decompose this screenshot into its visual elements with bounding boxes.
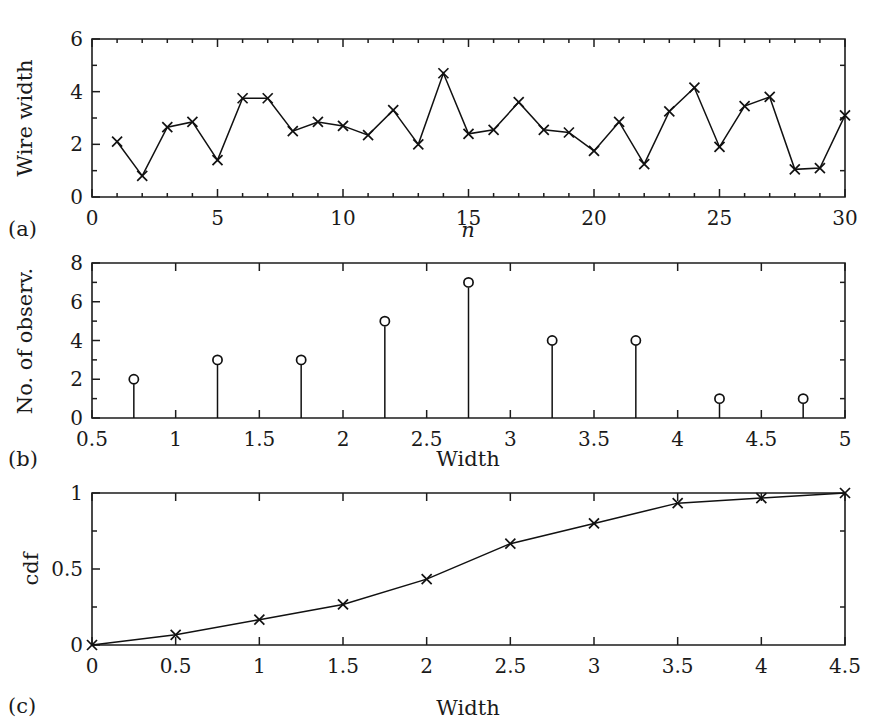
y-axis-label-b: No. of observ.	[13, 268, 37, 414]
x-tick-label-a-4: 20	[581, 206, 606, 230]
data-point-marker-x	[664, 106, 674, 116]
data-point-marker-x	[765, 92, 775, 102]
x-tick-label-a-2: 10	[330, 206, 355, 230]
data-point-marker-x	[388, 105, 398, 115]
series-markers-a	[112, 68, 850, 181]
x-tick-label-c-1: 0.5	[160, 654, 192, 678]
data-point-marker-x	[363, 130, 373, 140]
data-point-marker-x	[213, 155, 223, 165]
x-tick-label-c-8: 4	[755, 654, 768, 678]
data-point-marker-x	[505, 539, 515, 549]
y-tick-label-c-2: 1	[70, 481, 83, 505]
x-tick-label-b-3: 2	[337, 427, 350, 451]
data-point-marker-x	[413, 139, 423, 149]
x-tick-label-c-3: 1.5	[327, 654, 359, 678]
x-tick-label-b-5: 3	[504, 427, 517, 451]
stem-series-b	[129, 278, 808, 418]
data-point-marker-x	[514, 97, 524, 107]
x-tick-label-c-0: 0	[86, 654, 99, 678]
x-tick-label-b-8: 4.5	[745, 427, 777, 451]
x-axis-label-b: Width	[436, 447, 499, 471]
data-point-marker-x	[689, 83, 699, 93]
x-tick-label-c-4: 2	[420, 654, 433, 678]
x-tick-label-b-9: 5	[839, 427, 852, 451]
x-tick-label-b-0: 0.5	[76, 427, 108, 451]
data-point-marker-x	[715, 142, 725, 152]
data-point-marker-x	[288, 126, 298, 136]
x-tick-label-c-6: 3	[588, 654, 601, 678]
y-tick-label-c-1: 0.5	[51, 557, 83, 581]
y-tick-label-a-2: 4	[70, 80, 83, 104]
data-point-marker-x	[112, 137, 122, 147]
stem-marker-circle-3	[380, 317, 389, 326]
y-tick-label-c-0: 0	[70, 633, 83, 657]
y-axis-label-a: Wire width	[13, 59, 37, 176]
data-point-marker-x	[639, 159, 649, 169]
data-point-marker-x	[614, 117, 624, 127]
stem-marker-circle-0	[129, 375, 138, 384]
series-line-a	[117, 73, 845, 176]
stem-marker-circle-7	[715, 394, 724, 403]
y-tick-label-a-3: 6	[70, 27, 83, 51]
data-point-marker-x	[422, 574, 432, 584]
figure-container: 0246051015202530Wire widthn(a)024680.511…	[0, 0, 890, 727]
axis-frame-c	[92, 493, 845, 645]
x-tick-label-b-7: 4	[671, 427, 684, 451]
series-line-c	[92, 493, 845, 645]
x-axis-label-c: Width	[436, 696, 499, 720]
x-tick-label-c-7: 3.5	[662, 654, 694, 678]
y-tick-label-a-0: 0	[70, 185, 83, 209]
stem-marker-circle-2	[297, 355, 306, 364]
x-tick-label-a-1: 5	[211, 206, 224, 230]
data-point-marker-x	[137, 171, 147, 181]
three-panel-figure: 0246051015202530Wire widthn(a)024680.511…	[0, 0, 890, 727]
x-tick-label-c-5: 2.5	[494, 654, 526, 678]
x-tick-label-a-0: 0	[86, 206, 99, 230]
y-tick-label-b-4: 8	[70, 251, 83, 275]
panel-c: 00.5100.511.522.533.544.5cdfWidth(c)	[8, 481, 861, 720]
data-point-marker-x	[740, 101, 750, 111]
data-point-marker-x	[589, 146, 599, 156]
x-tick-label-c-9: 4.5	[829, 654, 861, 678]
y-tick-label-b-3: 6	[70, 290, 83, 314]
x-tick-label-b-2: 1.5	[243, 427, 275, 451]
data-point-marker-x	[589, 518, 599, 528]
stem-marker-circle-1	[213, 355, 222, 364]
data-point-marker-x	[438, 68, 448, 78]
axis-frame-a	[92, 39, 845, 197]
panel-label-a: (a)	[8, 217, 37, 241]
y-tick-label-b-1: 2	[70, 367, 83, 391]
stem-marker-circle-8	[799, 394, 808, 403]
stem-marker-circle-6	[631, 336, 640, 345]
x-tick-label-b-6: 3.5	[578, 427, 610, 451]
series-markers-c	[87, 488, 850, 650]
y-tick-label-a-1: 2	[70, 132, 83, 156]
y-axis-label-c: cdf	[19, 550, 43, 585]
x-tick-label-b-1: 1	[169, 427, 182, 451]
panel-label-b: (b)	[8, 447, 38, 471]
y-tick-label-b-2: 4	[70, 329, 83, 353]
x-axis-label-a: n	[461, 218, 475, 242]
panel-label-c: (c)	[8, 694, 36, 718]
stem-marker-circle-4	[464, 278, 473, 287]
x-tick-label-a-5: 25	[707, 206, 732, 230]
panel-a: 0246051015202530Wire widthn(a)	[8, 27, 858, 242]
x-tick-label-c-2: 1	[253, 654, 266, 678]
stem-marker-circle-5	[548, 336, 557, 345]
panel-b: 024680.511.522.533.544.55No. of observ.W…	[8, 251, 851, 471]
x-tick-label-a-6: 30	[832, 206, 857, 230]
